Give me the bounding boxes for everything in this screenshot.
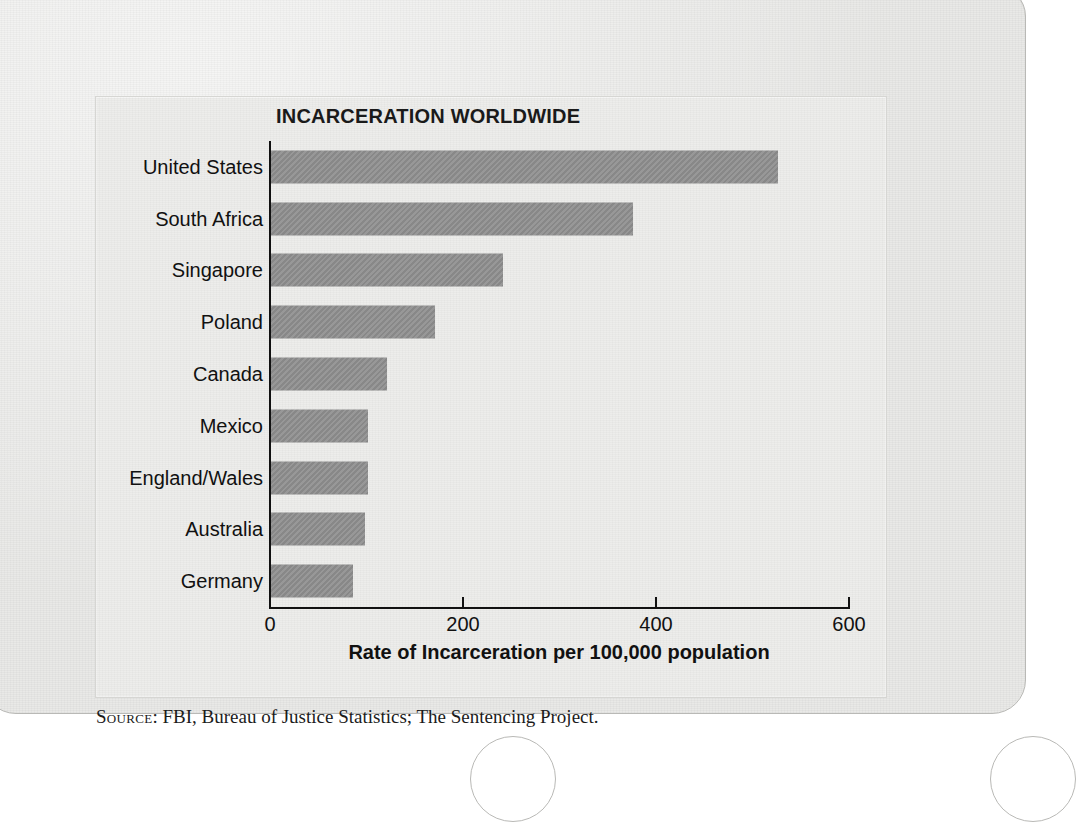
bar-row: South Africa [96, 193, 886, 245]
x-tick-label: 600 [832, 613, 865, 636]
page-tab-notch-2 [990, 736, 1076, 822]
x-tick-mark [848, 597, 850, 609]
plot-area: United StatesSouth AfricaSingaporePoland… [96, 141, 886, 621]
category-label: Australia [185, 518, 263, 541]
bar-row: Canada [96, 348, 886, 400]
x-tick-mark [462, 597, 464, 609]
bar-rows: United StatesSouth AfricaSingaporePoland… [96, 141, 886, 607]
source-text: FBI, Bureau of Justice Statistics; The S… [162, 706, 598, 727]
bar-row: Mexico [96, 400, 886, 452]
chart-title: INCARCERATION WORLDWIDE [276, 105, 580, 128]
category-label: Singapore [172, 259, 263, 282]
x-tick-label: 0 [264, 613, 275, 636]
x-tick-label: 200 [446, 613, 479, 636]
x-axis-label: Rate of Incarceration per 100,000 popula… [269, 641, 849, 664]
page-tab-notch-1 [470, 736, 556, 822]
category-label: England/Wales [129, 466, 263, 489]
bar [271, 461, 368, 494]
x-tick-label: 400 [639, 613, 672, 636]
bar [271, 202, 633, 235]
category-label: Canada [193, 362, 263, 385]
category-label: United States [143, 155, 263, 178]
x-tick-mark [655, 597, 657, 609]
bar-row: Australia [96, 503, 886, 555]
y-axis-line [269, 141, 271, 607]
category-label: Mexico [200, 414, 263, 437]
bar [271, 565, 353, 598]
bar [271, 409, 368, 442]
chart-figure: INCARCERATION WORLDWIDE United StatesSou… [95, 96, 887, 698]
source-separator: : [152, 706, 162, 727]
bar-row: Singapore [96, 245, 886, 297]
bar [271, 306, 435, 339]
bar [271, 357, 387, 390]
category-label: South Africa [155, 207, 263, 230]
category-label: Poland [201, 311, 263, 334]
bar-row: Poland [96, 296, 886, 348]
x-axis-line [269, 607, 849, 609]
source-note: Source: FBI, Bureau of Justice Statistic… [96, 706, 599, 728]
bar [271, 254, 503, 287]
source-label: Source [96, 706, 152, 727]
category-label: Germany [181, 570, 263, 593]
bar-row: Germany [96, 555, 886, 607]
bar [271, 150, 778, 183]
bar-row: England/Wales [96, 452, 886, 504]
bar-row: United States [96, 141, 886, 193]
bar [271, 513, 365, 546]
